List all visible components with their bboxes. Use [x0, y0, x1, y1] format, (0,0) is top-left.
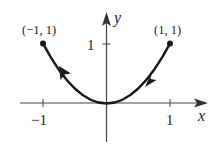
right-endpoint-label: (1, 1): [154, 23, 181, 37]
left-endpoint-dot: [40, 41, 46, 47]
left-endpoint-label: (−1, 1): [22, 23, 56, 37]
right-endpoint-dot: [167, 41, 173, 47]
x-axis-label: x: [197, 107, 205, 124]
x-tick-label-neg1: −1: [31, 112, 47, 128]
plot-svg: (−1, 1) (1, 1) 1 y −1 1 x: [0, 0, 221, 146]
y-tick-label-1: 1: [87, 37, 95, 53]
y-axis-label: y: [112, 9, 122, 27]
x-tick-label-1: 1: [166, 112, 174, 128]
y-axis: [102, 12, 111, 142]
parametric-curve-diagram: (−1, 1) (1, 1) 1 y −1 1 x: [0, 0, 221, 146]
